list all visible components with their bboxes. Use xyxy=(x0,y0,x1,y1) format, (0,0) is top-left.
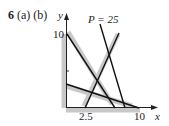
x-tick-label-2-5: 2.5 xyxy=(79,110,93,122)
y-tick-label-10: 10 xyxy=(53,28,65,40)
objective-annotation: P = 25 xyxy=(87,13,119,25)
chart: 10 y 2.5 10 x P = 25 xyxy=(0,0,169,126)
x-axis-label: x xyxy=(154,110,160,122)
y-axis-label: y xyxy=(57,9,63,21)
x-tick-label-10: 10 xyxy=(134,110,146,122)
y-axis-arrow-icon xyxy=(64,13,69,20)
axes xyxy=(66,16,155,108)
